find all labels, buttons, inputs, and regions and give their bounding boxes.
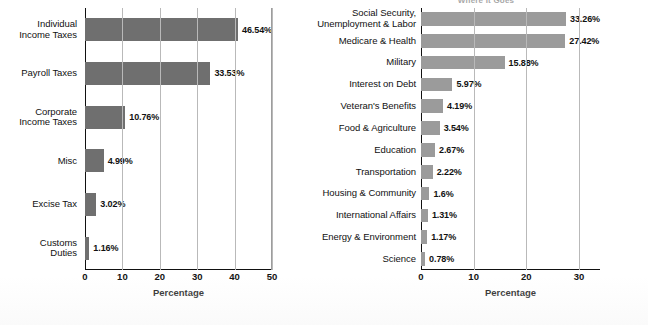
bar-row: 1.17% (421, 230, 600, 244)
category-label-line: Energy & Environment (322, 232, 416, 243)
bar-value-label: 2.22% (433, 167, 462, 177)
bar-value-label: 3.54% (440, 123, 469, 133)
category-label-10: International Affairs (336, 210, 416, 221)
category-label-9: Housing & Community (336, 188, 416, 199)
bar-5 (85, 193, 96, 216)
category-label-line: Income Taxes (19, 117, 77, 128)
gridline-50 (272, 8, 273, 270)
category-label-line: Education (374, 145, 416, 156)
x-tick-10: 10 (117, 271, 128, 282)
bar-row: 2.67% (421, 143, 600, 157)
bar-value-label: 27.42% (565, 36, 599, 46)
bar-3 (421, 56, 505, 70)
bar-row: 33.53% (85, 62, 272, 85)
bar-row: 2.22% (421, 165, 600, 179)
bar-row: 27.42% (421, 34, 600, 48)
bar-8 (421, 165, 433, 179)
category-label-line: International Affairs (336, 210, 416, 221)
category-label-5: Veteran's Benefits (341, 101, 416, 112)
bar-3 (85, 106, 125, 129)
category-label-1: Social Security,Unemployment & Labor (331, 8, 416, 29)
category-label-line: Transportation (356, 167, 416, 178)
category-label-5: Excise Tax (32, 199, 77, 210)
bar-row: 46.54% (85, 18, 272, 41)
gridline-20 (160, 8, 161, 270)
category-label-2: Medicare & Health (339, 36, 416, 47)
bar-value-label: 15.88% (505, 58, 539, 68)
x-tick-30: 30 (574, 271, 585, 282)
bar-row: 3.54% (421, 121, 600, 135)
bar-5 (421, 99, 443, 113)
category-label-6: CustomsDuties (40, 238, 77, 259)
left-chart-bars: 46.54%33.53%10.76%4.99%3.02%1.16% (85, 8, 272, 270)
bar-row: 4.19% (421, 99, 600, 113)
category-label-line: Misc (58, 156, 77, 167)
category-label-3: Military (386, 57, 416, 68)
right-chart-category-labels: Social Security,Unemployment & LaborMedi… (326, 8, 419, 270)
bar-value-label: 2.67% (435, 145, 464, 155)
bar-row: 5.97% (421, 78, 600, 92)
bar-row: 10.76% (85, 106, 272, 129)
bar-row: 1.16% (85, 237, 272, 260)
category-label-line: Interest on Debt (349, 79, 416, 90)
bar-value-label: 33.53% (210, 68, 244, 78)
bar-value-label: 10.76% (125, 112, 159, 122)
gridline-10 (474, 8, 475, 270)
chart-panel-where-it-comes-from: IndividualIncome TaxesPayroll TaxesCorpo… (0, 0, 324, 325)
bar-row: 1.31% (421, 209, 600, 223)
bar-value-label: 5.97% (452, 79, 481, 89)
bar-2 (85, 62, 210, 85)
bar-9 (421, 187, 429, 201)
bar-6 (421, 121, 440, 135)
bar-10 (421, 209, 428, 223)
category-label-line: Food & Agriculture (339, 123, 416, 134)
category-label-4: Misc (58, 156, 77, 167)
bar-1 (421, 12, 566, 26)
category-label-line: Science (383, 254, 416, 265)
bar-value-label: 1.31% (428, 210, 457, 220)
bar-row: 4.99% (85, 149, 272, 172)
bar-4 (85, 149, 104, 172)
bar-7 (421, 143, 435, 157)
x-tick-20: 20 (521, 271, 532, 282)
bar-4 (421, 78, 452, 92)
category-label-line: Payroll Taxes (21, 68, 77, 79)
category-label-3: CorporateIncome Taxes (19, 107, 77, 128)
bar-row: 0.78% (421, 252, 600, 266)
bar-value-label: 33.26% (566, 14, 600, 24)
bar-row: 15.88% (421, 56, 600, 70)
left-chart-category-labels: IndividualIncome TaxesPayroll TaxesCorpo… (0, 8, 81, 270)
figure-two-bar-charts: IndividualIncome TaxesPayroll TaxesCorpo… (0, 0, 648, 325)
bar-value-label: 4.99% (104, 156, 133, 166)
category-label-line: Excise Tax (32, 199, 77, 210)
category-label-6: Food & Agriculture (339, 123, 416, 134)
right-chart-bars: 33.26%27.42%15.88%5.97%4.19%3.54%2.67%2.… (421, 8, 600, 270)
category-label-4: Interest on Debt (349, 79, 416, 90)
right-chart-title: Where It Goes (324, 0, 648, 5)
bar-row: 33.26% (421, 12, 600, 26)
x-tick-50: 50 (267, 271, 278, 282)
bar-row: 3.02% (85, 193, 272, 216)
category-label-line: Unemployment & Labor (317, 19, 416, 30)
bar-value-label: 1.16% (89, 243, 118, 253)
x-tick-20: 20 (155, 271, 166, 282)
right-chart-plot-area: 33.26%27.42%15.88%5.97%4.19%3.54%2.67%2.… (421, 8, 600, 270)
category-label-line: Military (386, 57, 416, 68)
category-label-1: IndividualIncome Taxes (19, 19, 77, 40)
category-label-line: Veteran's Benefits (341, 101, 416, 112)
gridline-30 (197, 8, 198, 270)
category-label-7: Education (374, 145, 416, 156)
gridline-20 (526, 8, 527, 270)
plot-right-edge (271, 8, 272, 270)
bar-value-label: 1.17% (427, 232, 456, 242)
gridline-40 (235, 8, 236, 270)
bar-value-label: 4.19% (443, 101, 472, 111)
bar-2 (421, 34, 565, 48)
category-label-2: Payroll Taxes (21, 68, 77, 79)
bar-value-label: 3.02% (96, 199, 125, 209)
x-tick-10: 10 (468, 271, 479, 282)
category-label-11: Energy & Environment (336, 232, 416, 243)
category-label-line: Housing & Community (322, 188, 416, 199)
bar-value-label: 0.78% (425, 254, 454, 264)
category-label-8: Transportation (356, 167, 416, 178)
